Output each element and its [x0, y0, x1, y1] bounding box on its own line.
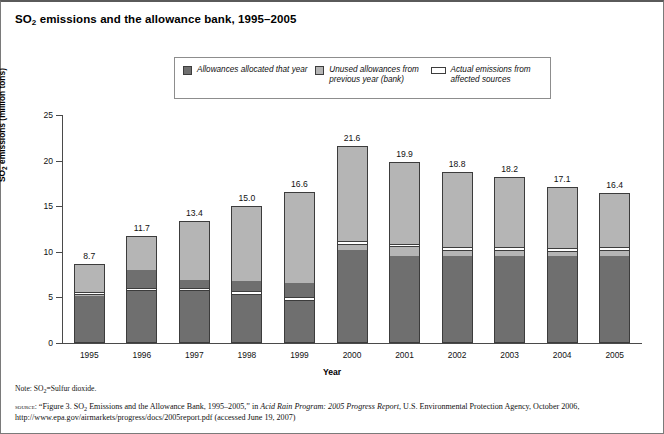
- figure-source: source: “Figure 3. SO2 Emissions and the…: [15, 401, 649, 424]
- bar-segment-emissions-1995: [75, 292, 104, 295]
- bar-value-label-2002: 18.8: [434, 159, 480, 169]
- legend-swatch-emissions-icon: [431, 67, 446, 74]
- bar-value-label-1997: 13.4: [171, 208, 217, 218]
- bar-2000[interactable]: [337, 146, 368, 343]
- y-tick-25: [56, 115, 62, 116]
- bar-2005[interactable]: [599, 193, 630, 343]
- bar-segment-emissions-2005: [600, 247, 629, 251]
- title-so2: SO: [15, 13, 32, 25]
- figure-note: Note: SO2=Sulfur dioxide.: [15, 384, 96, 393]
- y-tick-15: [56, 206, 62, 207]
- x-tick-label-2005: 2005: [592, 350, 638, 360]
- bar-segment-emissions-1999: [285, 297, 314, 301]
- bar-1998[interactable]: [231, 206, 262, 343]
- bar-value-label-2001: 19.9: [382, 149, 428, 159]
- bar-segment-emissions-2003: [495, 247, 524, 251]
- legend-swatch-bank-icon: [315, 66, 324, 75]
- note-label: Note: SO: [15, 384, 43, 393]
- source-keyword: source:: [15, 402, 37, 411]
- bar-1995[interactable]: [74, 264, 105, 343]
- bar-segment-emissions-1997: [180, 288, 209, 292]
- y-tick-5: [56, 297, 62, 298]
- bar-segment-emissions-2000: [338, 241, 367, 245]
- bar-value-label-2000: 21.6: [329, 133, 375, 143]
- bar-segment-allocated-1995: [75, 296, 104, 343]
- bar-2003[interactable]: [494, 177, 525, 343]
- bar-value-label-1998: 15.0: [224, 193, 270, 203]
- y-tick-label-0: 0: [27, 338, 53, 348]
- source-report-title: Acid Rain Program: 2005 Progress Report: [260, 402, 399, 411]
- legend-swatch-allocated-icon: [183, 66, 192, 75]
- source-part-a: “Figure 3. SO: [37, 402, 84, 411]
- bar-2002[interactable]: [442, 172, 473, 343]
- legend-item-allowances-allocated: Allowances allocated that year: [183, 65, 315, 75]
- bar-segment-allocated-1998: [232, 281, 261, 342]
- bar-segment-allocated-1999: [285, 283, 314, 342]
- note-rest: =Sulfur dioxide.: [46, 384, 96, 393]
- bar-1997[interactable]: [179, 221, 210, 343]
- bar-segment-allocated-2005: [600, 256, 629, 342]
- y-tick-label-10: 10: [27, 247, 53, 257]
- y-tick-label-20: 20: [27, 156, 53, 166]
- figure-container: SO2 emissions and the allowance bank, 19…: [0, 0, 664, 434]
- x-tick-label-1998: 1998: [224, 350, 270, 360]
- bar-segment-allocated-2004: [548, 256, 577, 342]
- bar-segment-emissions-2001: [390, 244, 419, 248]
- x-tick-label-2000: 2000: [329, 350, 375, 360]
- legend-label-bank: Unused allowances from previous year (ba…: [329, 65, 430, 84]
- source-subscript: 2: [84, 405, 87, 412]
- bar-value-label-2004: 17.1: [539, 174, 585, 184]
- bar-segment-allocated-2003: [495, 256, 524, 342]
- bar-segment-allocated-2001: [390, 256, 419, 342]
- x-tick-label-2002: 2002: [434, 350, 480, 360]
- bar-value-label-2005: 16.4: [592, 180, 638, 190]
- x-axis-line: [62, 343, 642, 344]
- title-rest: emissions and the allowance bank, 1995–2…: [36, 13, 296, 25]
- x-tick-label-1997: 1997: [171, 350, 217, 360]
- y-tick-label-5: 5: [27, 292, 53, 302]
- y-tick-20: [56, 161, 62, 162]
- y-tick-label-15: 15: [27, 201, 53, 211]
- source-part-b: Emissions and the Allowance Bank, 1995–2…: [87, 402, 260, 411]
- legend-item-unused-allowances: Unused allowances from previous year (ba…: [315, 65, 430, 84]
- bar-segment-allocated-2000: [338, 250, 367, 342]
- x-tick-label-2004: 2004: [539, 350, 585, 360]
- bar-value-label-1995: 8.7: [66, 251, 112, 261]
- y-tick-0: [56, 343, 62, 344]
- page-title: SO2 emissions and the allowance bank, 19…: [15, 13, 296, 25]
- bar-segment-emissions-2002: [443, 247, 472, 251]
- x-tick-label-2001: 2001: [382, 350, 428, 360]
- bar-1999[interactable]: [284, 192, 315, 343]
- bar-value-label-1996: 11.7: [119, 223, 165, 233]
- bar-2004[interactable]: [547, 187, 578, 343]
- bar-segment-emissions-1996: [127, 288, 156, 292]
- title-subscript: 2: [32, 18, 37, 27]
- bar-value-label-2003: 18.2: [487, 164, 533, 174]
- bar-value-label-1999: 16.6: [276, 179, 322, 189]
- bar-2001[interactable]: [389, 162, 420, 343]
- y-axis-title: SO2 emissions (million tons): [0, 68, 7, 182]
- bar-segment-allocated-1996: [127, 270, 156, 342]
- legend-item-actual-emissions: Actual emissions from affected sources: [431, 65, 542, 84]
- chart-legend: Allowances allocated that year Unused al…: [174, 57, 551, 99]
- x-tick-label-2003: 2003: [487, 350, 533, 360]
- legend-label-allocated: Allowances allocated that year: [197, 65, 308, 75]
- bar-segment-emissions-1998: [232, 291, 261, 295]
- legend-label-emissions: Actual emissions from affected sources: [451, 65, 542, 84]
- y-tick-label-25: 25: [27, 110, 53, 120]
- x-tick-label-1996: 1996: [119, 350, 165, 360]
- x-tick-label-1999: 1999: [276, 350, 322, 360]
- bar-1996[interactable]: [126, 236, 157, 343]
- x-tick-label-1995: 1995: [66, 350, 112, 360]
- bar-segment-allocated-2002: [443, 256, 472, 342]
- y-tick-10: [56, 252, 62, 253]
- x-axis-title: Year: [1, 367, 663, 377]
- bar-segment-emissions-2004: [548, 248, 577, 252]
